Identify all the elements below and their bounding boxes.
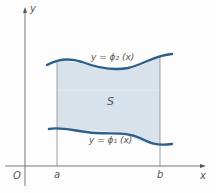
x-axis-label: x (200, 171, 206, 181)
y-axis-label: y (30, 4, 36, 14)
region-s-label: S (107, 96, 114, 107)
upper-curve-label: y = ϕ₂ (x) (91, 53, 134, 62)
x-axis-arrow-icon (200, 164, 206, 168)
region-between-curves-diagram: y x O a b S y = ϕ₂ (x) y = ϕ₁ (x) (0, 0, 216, 193)
b-label: b (157, 170, 163, 180)
a-label: a (54, 170, 60, 180)
lower-curve-label: y = ϕ₁ (x) (89, 136, 132, 145)
y-axis-arrow-icon (23, 7, 27, 13)
origin-label: O (13, 171, 21, 181)
